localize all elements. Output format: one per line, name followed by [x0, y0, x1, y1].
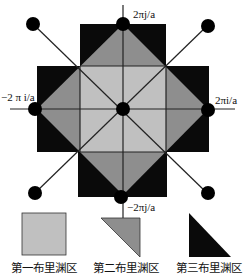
lattice-point-left	[28, 102, 42, 116]
legend: 第一布里渊区 第二布里渊区 第三布里渊区	[11, 213, 242, 275]
legend-swatch-zone1	[22, 213, 66, 255]
legend-label-zone1: 第一布里渊区	[11, 261, 77, 275]
legend-label-zone3: 第三布里渊区	[176, 261, 242, 275]
lattice-point-bottom	[114, 190, 128, 204]
label-right: 2πi/a	[215, 94, 237, 106]
lattice-point-top-right	[201, 19, 215, 33]
lattice-point-center	[116, 102, 130, 116]
lattice-point-right	[201, 103, 215, 117]
label-left: −2 π i/a	[1, 91, 35, 103]
legend-swatch-zone3	[189, 213, 231, 257]
lattice-point-bottom-right	[201, 186, 215, 200]
legend-label-zone2: 第二布里渊区	[93, 261, 159, 275]
label-bottom: −2πj/a	[127, 201, 155, 213]
lattice-point-top	[116, 17, 130, 31]
brillouin-zone-diagram: 2πj/a −2πj/a 2πi/a −2 π i/a 第一布里渊区 第二布里渊…	[0, 0, 247, 280]
legend-swatch-zone2	[101, 218, 140, 257]
label-top: 2πj/a	[133, 8, 155, 20]
lattice-point-top-left	[26, 17, 40, 31]
lattice-point-bottom-left	[28, 186, 42, 200]
